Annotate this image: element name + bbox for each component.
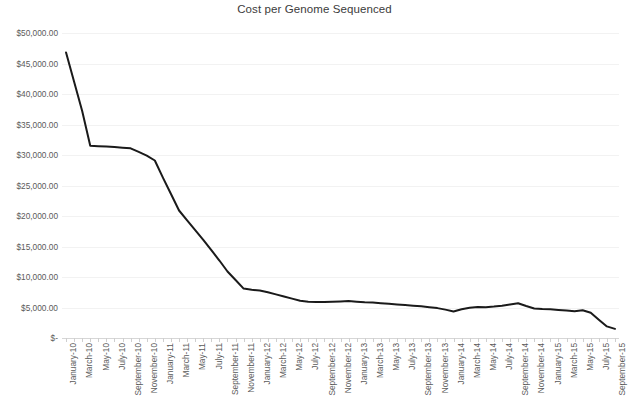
x-tick-label: November-11: [247, 343, 255, 393]
x-tick-label: May-15: [586, 343, 594, 371]
series-polyline: [66, 53, 615, 329]
x-tick: [74, 338, 75, 342]
x-tick: [349, 338, 350, 342]
x-tick: [437, 338, 438, 342]
x-tick: [131, 338, 132, 342]
x-tick: [510, 338, 511, 342]
x-tick-label: January-15: [554, 343, 562, 385]
x-tick: [66, 338, 67, 342]
x-tick-label: July-14: [505, 343, 513, 370]
y-tick-label: $10,000.00: [16, 272, 58, 282]
y-axis: $50,000.00$45,000.00$40,000.00$35,000.00…: [0, 33, 58, 338]
x-tick: [300, 338, 301, 342]
chart-title: Cost per Genome Sequenced: [0, 3, 629, 15]
x-tick: [389, 338, 390, 342]
x-tick: [227, 338, 228, 342]
y-tick-label: $15,000.00: [16, 242, 58, 252]
y-tick-label: $5,000.00: [21, 303, 58, 313]
y-tick-label: $50,000.00: [16, 28, 58, 38]
x-tick: [292, 338, 293, 342]
x-tick: [332, 338, 333, 342]
x-tick: [195, 338, 196, 342]
x-tick-label: January-11: [166, 343, 174, 384]
x-tick: [575, 338, 576, 342]
x-tick-label: January-14: [457, 343, 465, 385]
x-tick: [567, 338, 568, 342]
x-tick: [163, 338, 164, 342]
x-tick-label: July-12: [311, 343, 319, 370]
y-tick-label: $25,000.00: [16, 181, 58, 191]
x-tick-label: September-11: [231, 343, 239, 395]
y-tick-label: $20,000.00: [16, 211, 58, 221]
x-tick: [599, 338, 600, 342]
x-tick: [550, 338, 551, 342]
x-tick: [365, 338, 366, 342]
x-tick-label: May-14: [489, 343, 497, 371]
x-tick-label: January-13: [360, 343, 368, 385]
x-tick: [381, 338, 382, 342]
x-tick: [316, 338, 317, 342]
y-tick-label: $35,000.00: [16, 120, 58, 130]
x-tick-label: November-12: [344, 343, 352, 393]
x-tick: [211, 338, 212, 342]
x-tick-label: November-13: [441, 343, 449, 393]
x-tick: [486, 338, 487, 342]
x-tick-label: September-15: [618, 343, 626, 396]
x-tick-label: May-10: [102, 343, 110, 371]
x-tick: [615, 338, 616, 342]
x-tick-label: March-13: [376, 343, 384, 378]
x-tick: [236, 338, 237, 342]
x-tick: [583, 338, 584, 342]
x-tick: [462, 338, 463, 342]
x-tick: [542, 338, 543, 342]
y-tick-label: $45,000.00: [16, 59, 58, 69]
x-axis-ticks: [62, 338, 619, 342]
x-tick: [478, 338, 479, 342]
x-tick: [171, 338, 172, 342]
x-tick: [397, 338, 398, 342]
x-tick-label: September-10: [134, 343, 142, 396]
x-tick: [421, 338, 422, 342]
x-tick: [558, 338, 559, 342]
x-tick: [187, 338, 188, 342]
x-tick: [147, 338, 148, 342]
x-tick-label: November-14: [537, 343, 545, 393]
x-tick: [341, 338, 342, 342]
x-tick: [82, 338, 83, 342]
x-tick-label: March-15: [570, 343, 578, 378]
x-tick: [454, 338, 455, 342]
x-tick-label: September-14: [521, 343, 529, 396]
x-tick: [252, 338, 253, 342]
x-tick: [373, 338, 374, 342]
x-tick: [405, 338, 406, 342]
x-axis-labels: January-10March-10May-10July-10September…: [62, 343, 619, 408]
x-tick: [607, 338, 608, 342]
x-tick: [413, 338, 414, 342]
x-tick-label: March-14: [473, 343, 481, 378]
y-tick-label: $30,000.00: [16, 150, 58, 160]
x-tick-label: January-10: [69, 343, 77, 385]
chart-container: Cost per Genome Sequenced $50,000.00$45,…: [0, 0, 629, 408]
x-tick-label: May-12: [295, 343, 303, 371]
x-tick: [179, 338, 180, 342]
x-tick-label: July-13: [408, 343, 416, 370]
x-tick: [106, 338, 107, 342]
x-tick: [123, 338, 124, 342]
line-series: [62, 33, 619, 338]
x-tick: [357, 338, 358, 342]
x-tick: [203, 338, 204, 342]
x-tick-label: May-13: [392, 343, 400, 371]
x-tick-label: July-11: [215, 343, 223, 369]
plot-area: [62, 33, 619, 338]
x-tick: [90, 338, 91, 342]
x-tick-label: July-10: [118, 343, 126, 370]
x-tick: [324, 338, 325, 342]
x-tick: [526, 338, 527, 342]
x-tick: [308, 338, 309, 342]
x-tick: [534, 338, 535, 342]
x-tick-label: March-10: [85, 343, 93, 378]
x-tick: [244, 338, 245, 342]
x-tick-label: July-15: [602, 343, 610, 370]
x-tick: [268, 338, 269, 342]
x-tick-label: May-11: [198, 343, 206, 370]
